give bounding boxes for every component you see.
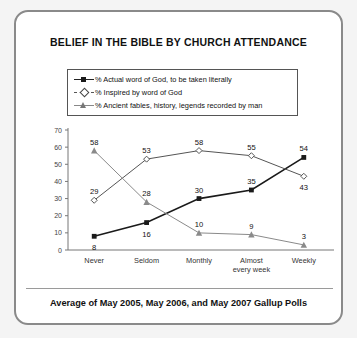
data-point-marker xyxy=(91,147,97,153)
data-point-label: 29 xyxy=(90,187,98,196)
y-axis-tick-label: 50 xyxy=(54,161,62,168)
y-axis-tick-label: 10 xyxy=(54,229,62,236)
chart-plot-area: 010203040506070NeverSeldomMonthlyAlmoste… xyxy=(16,122,345,272)
legend-item-label: % Inspired by word of God xyxy=(95,88,182,97)
x-axis-tick-label: every week xyxy=(233,265,271,274)
data-point-marker xyxy=(92,234,97,239)
data-point-label: 54 xyxy=(300,144,308,153)
data-point-marker xyxy=(301,155,306,160)
line-chart-svg: 010203040506070NeverSeldomMonthlyAlmoste… xyxy=(16,122,345,292)
data-point-label: 3 xyxy=(302,232,306,241)
x-axis-tick-label: Monthly xyxy=(186,256,212,265)
data-point-label: 58 xyxy=(90,138,98,147)
chart-card: BELIEF IN THE BIBLE BY CHURCH ATTENDANCE… xyxy=(14,10,343,325)
data-point-label: 30 xyxy=(195,186,203,195)
legend-item-label: % Actual word of God, to be taken litera… xyxy=(95,75,232,84)
legend-item-inspired: % Inspired by word of God xyxy=(73,86,293,99)
data-point-label: 9 xyxy=(249,222,253,231)
x-axis-tick-label: Almost xyxy=(240,256,263,265)
data-point-marker xyxy=(197,196,202,201)
caption-divider xyxy=(26,288,333,289)
data-point-label: 8 xyxy=(92,243,96,252)
x-axis-tick-label: Seldom xyxy=(134,256,159,265)
legend-item-fables: % Ancient fables, history, legends recor… xyxy=(73,99,293,112)
triangle-icon xyxy=(73,100,95,111)
open-diamond-icon xyxy=(73,87,95,98)
y-axis-tick-label: 30 xyxy=(54,195,62,202)
y-axis-tick-label: 70 xyxy=(54,127,62,134)
data-point-label: 28 xyxy=(142,189,150,198)
data-point-label: 58 xyxy=(195,138,203,147)
data-point-marker xyxy=(249,188,254,193)
page-title: BELIEF IN THE BIBLE BY CHURCH ATTENDANCE xyxy=(16,36,341,48)
filled-square-icon xyxy=(73,74,95,85)
data-point-label: 16 xyxy=(142,230,150,239)
data-point-marker xyxy=(301,173,307,179)
legend-item-label: % Ancient fables, history, legends recor… xyxy=(95,101,262,110)
data-point-marker xyxy=(248,153,254,159)
data-point-label: 10 xyxy=(195,220,203,229)
data-point-label: 55 xyxy=(247,143,255,152)
data-point-label: 43 xyxy=(300,183,308,192)
y-axis-tick-label: 60 xyxy=(54,144,62,151)
data-point-label: 53 xyxy=(142,146,150,155)
data-point-marker xyxy=(196,148,202,154)
y-axis-tick-label: 40 xyxy=(54,178,62,185)
chart-legend: % Actual word of God, to be taken litera… xyxy=(67,69,298,116)
data-point-label: 35 xyxy=(247,177,255,186)
data-point-marker xyxy=(144,220,149,225)
legend-item-literal: % Actual word of God, to be taken litera… xyxy=(73,73,293,86)
y-axis-tick-label: 20 xyxy=(54,212,62,219)
x-axis-tick-label: Never xyxy=(84,256,104,265)
x-axis-tick-label: Weekly xyxy=(292,256,316,265)
y-axis-tick-label: 0 xyxy=(58,247,62,254)
chart-caption: Average of May 2005, May 2006, and May 2… xyxy=(16,298,341,308)
